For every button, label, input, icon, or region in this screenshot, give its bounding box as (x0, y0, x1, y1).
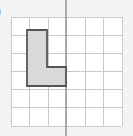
grid-figure-svg (0, 0, 133, 136)
figure-canvas: ) (0, 0, 133, 136)
